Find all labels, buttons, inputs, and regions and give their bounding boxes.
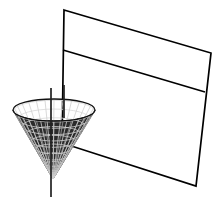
geometry-figure xyxy=(0,0,222,207)
figure-background xyxy=(0,0,222,207)
figure-container xyxy=(0,0,222,207)
